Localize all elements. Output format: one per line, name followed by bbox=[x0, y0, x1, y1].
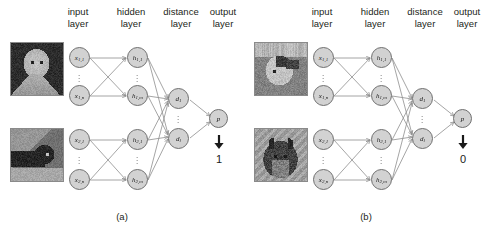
node-hidden-h11: h1,1 bbox=[127, 47, 148, 68]
vertical-dots-icon: ... bbox=[376, 154, 386, 163]
vertical-dots-icon: ... bbox=[318, 154, 328, 163]
down-arrow-icon bbox=[456, 134, 470, 150]
node-hidden-h21: h2,1 bbox=[127, 129, 148, 150]
node-hidden-h11: h1,1 bbox=[371, 47, 392, 68]
node-input-x1n: x1,n bbox=[313, 85, 334, 106]
node-input-x1n: x1,n bbox=[69, 85, 90, 106]
vertical-dots-icon: ... bbox=[132, 154, 142, 163]
node-output-p: p bbox=[209, 109, 228, 128]
node-distance-d1: d1 bbox=[168, 88, 189, 109]
vertical-dots-icon: ... bbox=[318, 72, 328, 81]
vertical-dots-icon: ... bbox=[132, 72, 142, 81]
vertical-dots-icon: ... bbox=[74, 154, 84, 163]
edge-lines-a bbox=[0, 0, 243, 238]
vertical-dots-icon: ... bbox=[173, 113, 183, 122]
vertical-dots-icon: ... bbox=[417, 113, 427, 122]
node-hidden-h21: h2,1 bbox=[371, 129, 392, 150]
panel-b: input layer hidden layer distance layer … bbox=[244, 0, 487, 238]
edge-lines-b bbox=[244, 0, 487, 238]
node-input-x11: x1,1 bbox=[69, 47, 90, 68]
vertical-dots-icon: ... bbox=[74, 72, 84, 81]
node-hidden-h1m: h1,m bbox=[127, 85, 148, 106]
node-input-x21: x2,1 bbox=[313, 129, 334, 150]
node-distance-dl: dl bbox=[168, 128, 189, 149]
node-input-x11: x1,1 bbox=[313, 47, 334, 68]
node-hidden-h2m: h2,m bbox=[371, 169, 392, 190]
node-hidden-h1m: h1,m bbox=[371, 85, 392, 106]
node-input-x2n: x2,n bbox=[69, 169, 90, 190]
down-arrow-icon bbox=[212, 134, 226, 150]
figure-root: input layer hidden layer distance layer … bbox=[0, 0, 487, 238]
node-input-x21: x2,1 bbox=[69, 129, 90, 150]
node-input-x2n: x2,n bbox=[313, 169, 334, 190]
panel-a: input layer hidden layer distance layer … bbox=[0, 0, 243, 238]
node-output-p: p bbox=[453, 109, 472, 128]
node-distance-dl: dl bbox=[412, 128, 433, 149]
node-hidden-h2m: h2,m bbox=[127, 169, 148, 190]
node-distance-d1: d1 bbox=[412, 88, 433, 109]
vertical-dots-icon: ... bbox=[376, 72, 386, 81]
